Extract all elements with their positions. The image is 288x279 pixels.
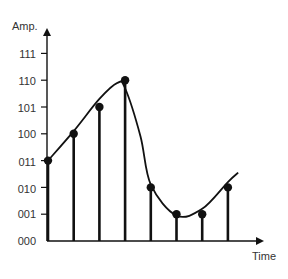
sample-point <box>70 130 78 241</box>
y-tick-label: 110 <box>12 76 36 87</box>
sample-point <box>198 210 206 241</box>
y-tick-label: 001 <box>12 209 36 220</box>
y-axis-label: Amp. <box>12 21 38 32</box>
sample-point <box>44 156 52 241</box>
sample-point <box>121 76 129 241</box>
y-tick-label: 000 <box>12 236 36 247</box>
x-axis-label: Time <box>252 251 276 262</box>
y-tick-label: 111 <box>12 49 36 60</box>
sample-point <box>224 183 232 241</box>
analog-signal-curve <box>48 81 238 217</box>
y-tick-label: 010 <box>12 184 36 195</box>
sample-stems <box>44 76 232 241</box>
y-tick-label: 101 <box>12 103 36 114</box>
y-tick-label: 011 <box>12 157 36 168</box>
y-axis-ticks <box>41 53 47 214</box>
stem-chart <box>0 0 288 279</box>
sample-point <box>95 103 103 241</box>
y-tick-label: 100 <box>12 129 36 140</box>
